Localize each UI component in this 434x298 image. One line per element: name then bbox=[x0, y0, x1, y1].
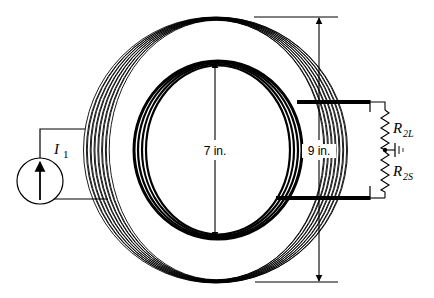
resistor-r2l-subscript: 2L bbox=[403, 128, 414, 139]
source-label: I bbox=[53, 141, 60, 157]
resistor-r2s-subscript: 2S bbox=[403, 171, 413, 182]
coil-diagram: I 1 R 2L R 2S 7 in. bbox=[0, 0, 434, 298]
inner-diameter-label: 7 in. bbox=[204, 144, 227, 158]
resistor-r2l bbox=[381, 110, 389, 152]
source-subscript: 1 bbox=[63, 148, 69, 160]
outer-diameter-label: 9 in. bbox=[308, 144, 331, 158]
resistor-r2s bbox=[381, 152, 389, 198]
ground-icon bbox=[395, 143, 403, 157]
resistor-r2s-label: R bbox=[392, 163, 402, 179]
resistor-r2l-label: R bbox=[392, 120, 402, 136]
load-resistors: R 2L R 2S bbox=[370, 102, 414, 198]
